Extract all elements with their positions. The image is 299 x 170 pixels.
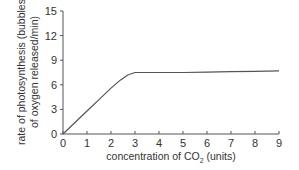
x-tick-label: 2 <box>108 137 114 149</box>
y-tick-label: 12 <box>45 30 57 42</box>
y-axis-title-line2: of oxygen released/min) <box>28 16 40 128</box>
data-line <box>63 71 279 134</box>
plot-area <box>63 71 279 134</box>
y-tick-label: 6 <box>51 79 57 91</box>
x-tick-label: 4 <box>156 137 162 149</box>
x-tick-label: 1 <box>84 137 90 149</box>
x-tick-label: 9 <box>276 137 282 149</box>
y-axis-title-line1: rate of photosynthesis (bubbles <box>15 0 27 145</box>
y-tick-label: 9 <box>51 54 57 66</box>
x-tick-label: 6 <box>204 137 210 149</box>
x-tick-label: 5 <box>180 137 186 149</box>
x-tick-label: 8 <box>252 137 258 149</box>
y-tick-label: 0 <box>51 128 57 140</box>
x-tick-label: 7 <box>228 137 234 149</box>
line-chart: 03691215 0123456789 concentration of CO2… <box>0 0 299 170</box>
x-axis-title: concentration of CO2 (units) <box>106 150 235 164</box>
x-tick-label: 0 <box>60 137 66 149</box>
y-tick-label: 15 <box>45 5 57 17</box>
y-axis: 03691215 <box>45 5 63 140</box>
x-axis: 0123456789 <box>60 131 282 149</box>
y-tick-label: 3 <box>51 103 57 115</box>
x-tick-label: 3 <box>132 137 138 149</box>
